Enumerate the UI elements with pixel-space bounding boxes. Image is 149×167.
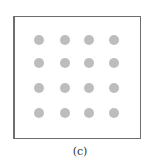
grid-dot (34, 83, 44, 93)
grid-dot (84, 35, 94, 45)
grid-dot (34, 58, 44, 68)
grid-dot (84, 58, 94, 68)
grid-dot (109, 83, 119, 93)
figure-caption: (c) (0, 145, 149, 158)
grid-dot (84, 108, 94, 118)
grid-dot (109, 35, 119, 45)
grid-dot (60, 83, 70, 93)
grid-dot (34, 108, 44, 118)
grid-dot (60, 58, 70, 68)
figure-frame (13, 16, 141, 139)
grid-dot (60, 35, 70, 45)
grid-dot (34, 35, 44, 45)
grid-dot (60, 108, 70, 118)
grid-dot (109, 108, 119, 118)
grid-dot (109, 58, 119, 68)
grid-dot (84, 83, 94, 93)
